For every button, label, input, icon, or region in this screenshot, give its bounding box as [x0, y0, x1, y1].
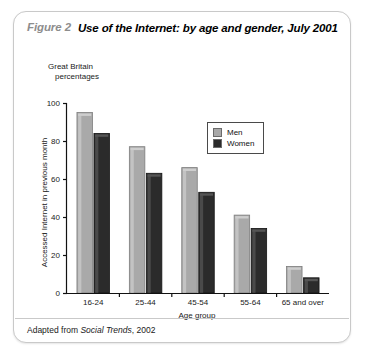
- bar-highlight: [305, 279, 308, 293]
- subtitle-units: percentages: [48, 72, 99, 82]
- bar: [129, 147, 145, 293]
- legend-swatch-women: [213, 139, 222, 148]
- source-note: Adapted from Social Trends, 2002: [27, 325, 155, 335]
- y-tick-label: 80: [51, 137, 60, 146]
- chart-subtitle: Great Britain percentages: [48, 62, 99, 81]
- x-category-label: 16-24: [83, 298, 104, 307]
- chart-legend: Men Women: [207, 122, 264, 154]
- bar-top-highlight: [200, 193, 213, 195]
- bar-highlight: [95, 135, 98, 293]
- figure-title: Use of the Internet: by age and gender, …: [78, 21, 338, 35]
- bar-top-highlight: [235, 216, 248, 218]
- bar: [287, 266, 303, 293]
- legend-label-women: Women: [227, 139, 254, 149]
- bar: [182, 168, 198, 293]
- bar-highlight: [131, 148, 134, 293]
- bar: [251, 228, 267, 293]
- bar-top-highlight: [288, 267, 301, 269]
- y-tick-label: 0: [56, 289, 61, 298]
- bar-top-highlight: [78, 114, 91, 116]
- bar: [304, 278, 320, 293]
- bar-top-highlight: [131, 148, 144, 150]
- x-category-label: 65 and over: [282, 298, 325, 307]
- y-axis-ticks: 020406080100: [47, 99, 67, 298]
- bar-highlight: [183, 169, 186, 293]
- bar-highlight: [148, 175, 151, 293]
- bar-highlight: [78, 114, 81, 293]
- bar: [146, 173, 162, 293]
- y-tick-label: 100: [47, 99, 61, 108]
- x-category-label: 55-64: [240, 298, 261, 307]
- footer-divider: [15, 318, 349, 319]
- bar-top-highlight: [305, 279, 318, 281]
- bar-top-highlight: [252, 229, 265, 231]
- bar: [94, 133, 110, 293]
- x-axis-category-labels: 16-2425-4445-5455-6465 and over: [83, 298, 324, 307]
- bar-highlight: [252, 230, 255, 293]
- bar: [199, 192, 215, 293]
- bar: [77, 113, 93, 294]
- legend-item-women: Women: [213, 138, 254, 149]
- bar-highlight: [200, 194, 203, 293]
- source-prefix: Adapted from: [27, 325, 80, 335]
- y-tick-label: 20: [51, 251, 60, 260]
- bar-top-highlight: [183, 169, 196, 171]
- x-category-label: 25-44: [135, 298, 156, 307]
- y-tick-label: 60: [51, 175, 60, 184]
- bar-top-highlight: [148, 174, 161, 176]
- subtitle-region: Great Britain: [48, 62, 99, 72]
- figure-card: Figure 2 Use of the Internet: by age and…: [13, 11, 351, 343]
- x-category-label: 45-54: [188, 298, 209, 307]
- bar-top-highlight: [95, 134, 108, 136]
- legend-label-men: Men: [227, 128, 243, 138]
- y-axis-label: Accessed Internet in previous month: [40, 113, 49, 293]
- bar-highlight: [288, 268, 291, 293]
- legend-item-men: Men: [213, 127, 254, 138]
- source-publication: Social Trends: [80, 325, 131, 335]
- y-tick-label: 40: [51, 213, 60, 222]
- bar-series-group: [77, 113, 319, 294]
- legend-swatch-men: [213, 128, 222, 137]
- bar: [234, 215, 250, 293]
- x-axis-tick-marks: [119, 293, 276, 297]
- bar-highlight: [235, 216, 238, 292]
- figure-header: Figure 2 Use of the Internet: by age and…: [27, 21, 340, 35]
- source-suffix: , 2002: [132, 325, 156, 335]
- figure-number: Figure 2: [27, 21, 71, 33]
